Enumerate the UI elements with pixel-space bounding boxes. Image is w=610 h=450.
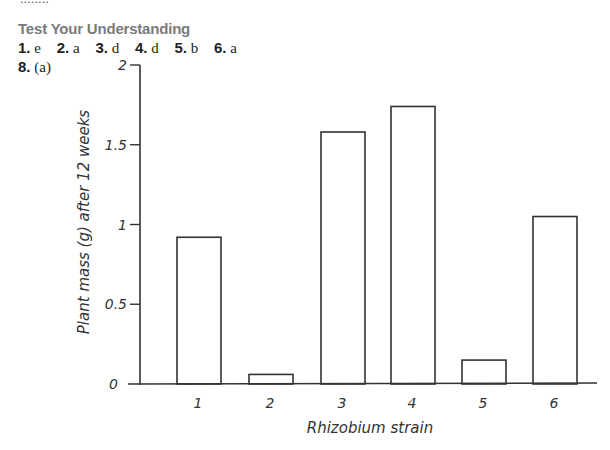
bar-strain-2 [249,374,293,384]
x-axis-label: Rhizobium strain [307,419,433,437]
bar-strain-4 [391,106,435,384]
x-tick-label: 4 [408,395,417,411]
x-tick-label: 5 [479,395,488,411]
bar-chart: 00.511.52 123456 Plant mass (g) after 12… [0,0,610,450]
bar-strain-3 [321,132,365,384]
y-axis-label: Plant mass (g) after 12 weeks [75,110,93,335]
y-tick-label: 0.5 [105,296,127,312]
x-tick-label: 3 [338,395,347,411]
x-axis-line [128,383,597,384]
bars [177,106,577,384]
y-tick-label: 1.5 [105,137,127,153]
x-tick-label: 6 [550,395,559,411]
y-tick-label: 0 [109,376,118,392]
y-tick-label: 1 [118,217,127,233]
y-ticks: 00.511.52 [105,57,140,392]
x-tick-label: 2 [266,395,275,411]
bar-strain-5 [462,360,506,384]
bar-strain-6 [533,217,577,384]
x-tick-label: 1 [194,395,203,411]
y-tick-label: 2 [118,57,127,73]
x-ticks: 123456 [194,395,559,411]
bar-strain-1 [177,237,221,384]
